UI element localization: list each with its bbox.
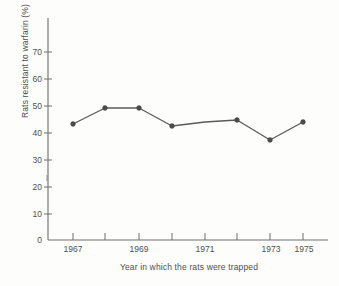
data-point-1975 [301,120,306,125]
data-point-1974 [268,138,273,143]
data-point-1973 [235,118,240,123]
data-point-1968 [103,106,108,111]
chart-figure: Rats resistant to warfarin (%) 70 60 50 … [0,0,339,286]
data-point-1969 [137,106,142,111]
data-line-series-1 [73,108,303,140]
data-point-1970 [170,124,175,129]
data-point-1967 [71,122,76,127]
plot-area [0,0,339,286]
